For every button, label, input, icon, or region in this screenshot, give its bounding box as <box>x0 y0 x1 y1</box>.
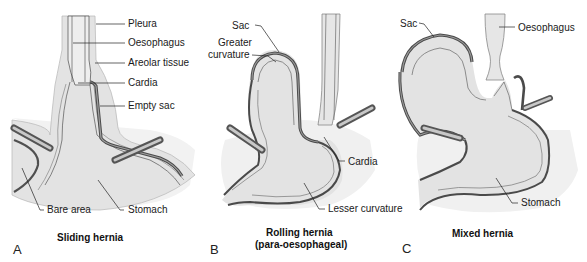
hernia-illustrations <box>0 0 587 262</box>
panel-b-title-line1: Rolling hernia <box>266 227 333 239</box>
label-pleura: Pleura <box>128 18 157 29</box>
panel-c-letter: C <box>402 242 411 256</box>
label-lesser-curvature: Lesser curvature <box>328 203 402 214</box>
label-oesophagus-c: Oesophagus <box>518 22 575 33</box>
panel-a-title: Sliding hernia <box>57 232 123 244</box>
label-empty-sac: Empty sac <box>128 100 175 111</box>
label-cardia-a: Cardia <box>128 77 157 88</box>
panel-b-letter: B <box>210 243 219 257</box>
label-greater-curvature-line1: Greater <box>218 37 252 48</box>
label-stomach-a: Stomach <box>128 204 167 215</box>
label-bare-area: Bare area <box>47 204 91 215</box>
label-sac-c: Sac <box>400 18 417 29</box>
label-sac-b: Sac <box>232 20 249 31</box>
panel-b-title-line2: (para-oesophageal) <box>255 239 347 251</box>
label-cardia-b: Cardia <box>348 156 377 167</box>
panel-c-illustration <box>400 14 578 212</box>
panel-a-letter: A <box>13 243 22 257</box>
panel-c-title: Mixed hernia <box>452 228 513 240</box>
label-stomach-c: Stomach <box>521 197 560 208</box>
label-oesophagus-a: Oesophagus <box>128 37 185 48</box>
hiatus-hernia-figure: Pleura Oesophagus Areolar tissue Cardia … <box>0 0 587 262</box>
label-greater-curvature-line2: curvature <box>208 49 250 60</box>
label-areolar-tissue: Areolar tissue <box>128 57 189 68</box>
